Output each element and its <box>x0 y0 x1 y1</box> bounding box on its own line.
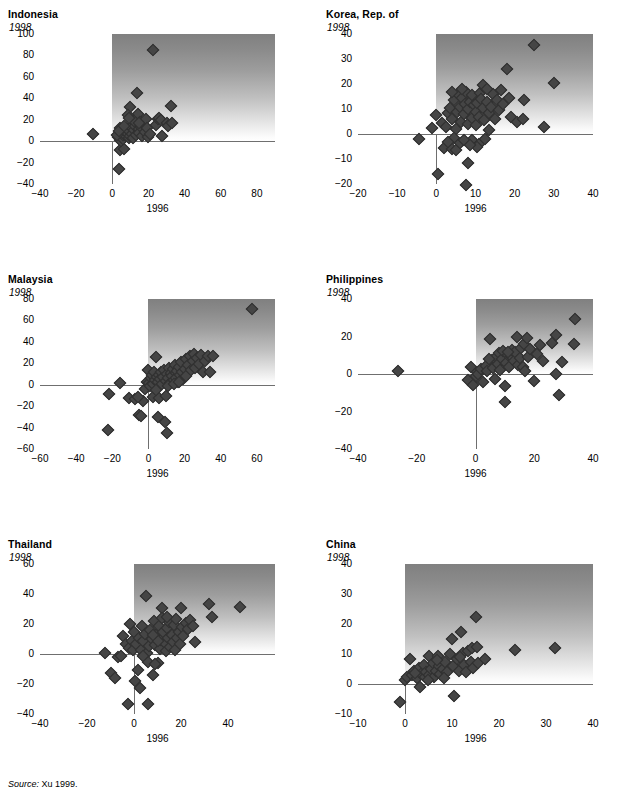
y-tick-label: 80 <box>8 50 34 60</box>
data-point-marker <box>160 427 173 440</box>
y-tick-label: 10 <box>326 104 352 114</box>
x-axis-label: 1996 <box>128 203 188 214</box>
y-tick-label: 60 <box>8 315 34 325</box>
y-tick-label: 100 <box>8 29 34 39</box>
y-tick-label: −20 <box>8 679 34 689</box>
y-tick-label: 60 <box>8 559 34 569</box>
y-tick-label: 80 <box>8 294 34 304</box>
x-tick-label: 40 <box>573 719 613 729</box>
x-axis-label: 1996 <box>128 733 188 744</box>
x-tick-label: 40 <box>165 189 205 199</box>
x-tick-label: 40 <box>201 454 241 464</box>
data-point-marker <box>146 669 159 682</box>
x-tick-label: 20 <box>514 454 554 464</box>
x-tick-label: 10 <box>432 719 472 729</box>
data-point-marker <box>142 697 155 710</box>
y-axis-line <box>405 684 406 714</box>
y-tick-label: 0 <box>326 129 352 139</box>
data-point-marker <box>448 690 461 703</box>
y-tick-label: 0 <box>8 649 34 659</box>
x-tick-label: −20 <box>397 454 437 464</box>
x-tick-label: −10 <box>377 189 417 199</box>
y-tick-label: 30 <box>326 54 352 64</box>
plot-area: −20−10010203040−20−100102030401996 <box>326 8 598 190</box>
x-tick-label: −40 <box>20 719 60 729</box>
x-tick-label: 80 <box>237 189 277 199</box>
y-tick-label: −20 <box>8 401 34 411</box>
source-note: Source: Xu 1999. <box>8 779 78 789</box>
data-point-marker <box>499 396 512 409</box>
data-point-marker <box>461 156 474 169</box>
scatter-panel-grid: Indonesia1998−40−20020406080100−40−20020… <box>0 0 637 799</box>
chart-panel-korea-rep-of: Korea, Rep. of1998−20−10010203040−20−100… <box>326 8 598 190</box>
plot-area: −40−2002040−40−20020401996 <box>326 273 598 455</box>
y-tick-label: 0 <box>326 679 352 689</box>
y-tick-label: −20 <box>326 407 352 417</box>
y-tick-label: 20 <box>8 619 34 629</box>
chart-panel-malaysia: Malaysia1998−60−40−20020406080−60−40−200… <box>8 273 280 455</box>
x-tick-label: 40 <box>573 454 613 464</box>
source-text: Xu 1999. <box>39 779 78 789</box>
x-tick-label: −40 <box>20 189 60 199</box>
y-tick-label: −10 <box>326 154 352 164</box>
x-axis-line <box>358 134 593 135</box>
x-axis-line <box>358 684 593 685</box>
y-tick-label: 20 <box>8 358 34 368</box>
data-point-marker <box>122 698 135 711</box>
x-tick-label: 0 <box>385 719 425 729</box>
y-tick-label: −40 <box>8 423 34 433</box>
x-tick-label: −60 <box>20 454 60 464</box>
x-tick-label: 10 <box>456 189 496 199</box>
x-axis-line <box>40 141 275 142</box>
x-tick-label: 0 <box>92 189 132 199</box>
source-label: Source: <box>8 779 39 789</box>
y-tick-label: 30 <box>326 589 352 599</box>
x-axis-line <box>40 654 275 655</box>
y-tick-label: 40 <box>8 93 34 103</box>
y-tick-label: 20 <box>326 619 352 629</box>
x-tick-label: −20 <box>67 719 107 729</box>
x-axis-label: 1996 <box>446 203 506 214</box>
x-tick-label: 0 <box>128 454 168 464</box>
x-tick-label: 0 <box>416 189 456 199</box>
x-tick-label: 40 <box>208 719 248 729</box>
y-tick-label: 60 <box>8 72 34 82</box>
x-tick-label: −20 <box>92 454 132 464</box>
x-axis-label: 1996 <box>446 468 506 479</box>
x-tick-label: −40 <box>338 454 378 464</box>
y-tick-label: 10 <box>326 649 352 659</box>
y-tick-label: −10 <box>326 709 352 719</box>
x-tick-label: −20 <box>56 189 96 199</box>
data-point-marker <box>391 365 404 378</box>
plot-area: −40−20020406080100−40−200204060801996 <box>8 8 280 190</box>
chart-panel-indonesia: Indonesia1998−40−20020406080100−40−20020… <box>8 8 280 190</box>
y-tick-label: −40 <box>8 709 34 719</box>
y-tick-label: 40 <box>326 294 352 304</box>
x-tick-label: 60 <box>237 454 277 464</box>
data-point-marker <box>432 168 445 181</box>
y-tick-label: −20 <box>326 179 352 189</box>
x-tick-label: 0 <box>456 454 496 464</box>
y-tick-label: −40 <box>8 179 34 189</box>
x-axis-label: 1996 <box>128 468 188 479</box>
y-tick-label: −60 <box>8 444 34 454</box>
x-tick-label: 30 <box>526 719 566 729</box>
y-tick-label: 0 <box>8 380 34 390</box>
y-tick-label: 40 <box>8 589 34 599</box>
y-tick-label: −40 <box>326 444 352 454</box>
x-axis-label: 1996 <box>446 733 506 744</box>
data-point-marker <box>114 377 127 390</box>
y-tick-label: 20 <box>8 115 34 125</box>
x-tick-label: 20 <box>161 719 201 729</box>
y-tick-label: 40 <box>326 29 352 39</box>
data-point-marker <box>98 647 111 660</box>
x-tick-label: −10 <box>338 719 378 729</box>
data-point-marker <box>101 423 114 436</box>
chart-panel-china: China1998−10010203040−100102030401996 <box>326 538 598 720</box>
chart-panel-thailand: Thailand1998−40−200204060−40−20020401996 <box>8 538 280 720</box>
x-tick-label: 60 <box>201 189 241 199</box>
y-tick-label: 0 <box>326 369 352 379</box>
x-tick-label: 20 <box>479 719 519 729</box>
data-point-marker <box>553 388 566 401</box>
x-tick-label: −20 <box>338 189 378 199</box>
